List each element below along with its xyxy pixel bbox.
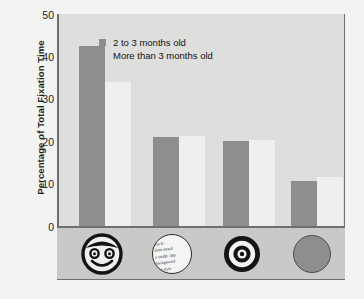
bar-disk-2to3months — [291, 181, 317, 226]
text-circle-lines: ima 8> dette attach n width: 30p backgro… — [153, 236, 192, 273]
bar-face-2to3months — [79, 46, 105, 226]
category-axis-strip: ima 8> dette attach n width: 30p backgro… — [57, 228, 345, 279]
y-tick-30: 30 — [20, 93, 54, 105]
bar-disk-over3months — [317, 177, 343, 226]
category-cell-bullseye — [219, 231, 265, 277]
legend-entry-over3months: More than 3 months old — [99, 49, 213, 62]
bar-text-over3months — [179, 136, 205, 226]
legend-label-2to3months: 2 to 3 months old — [113, 36, 186, 49]
legend-label-over3months: More than 3 months old — [113, 49, 213, 62]
bar-bullseye-2to3months — [223, 141, 249, 226]
category-cell-text-pattern: ima 8> dette attach n width: 30p backgro… — [149, 231, 195, 277]
bar-chart-figure: Percentage of Total Fixation Time 50 40 … — [0, 0, 364, 299]
text-circle-icon: ima 8> dette attach n width: 30p backgro… — [152, 234, 192, 274]
y-tick-10: 10 — [20, 178, 54, 190]
legend-entry-2to3months: 2 to 3 months old — [99, 36, 213, 49]
y-tick-40: 40 — [20, 51, 54, 63]
category-cell-face — [79, 231, 125, 277]
bar-text-2to3months — [153, 137, 179, 226]
bar-face-over3months — [105, 82, 131, 226]
y-axis-tick-labels: 50 40 30 20 10 0 — [16, 0, 54, 299]
smiley-face-icon — [80, 232, 124, 276]
y-tick-20: 20 — [20, 136, 54, 148]
plain-disk-icon — [293, 235, 331, 273]
bar-bullseye-over3months — [249, 140, 275, 226]
category-cell-plain-disk — [289, 231, 335, 277]
y-tick-0: 0 — [20, 221, 54, 233]
bullseye-icon — [221, 233, 263, 275]
legend: 2 to 3 months old More than 3 months old — [99, 36, 213, 62]
legend-swatch-icon-over3months — [99, 52, 106, 59]
legend-swatch-icon-2to3months — [99, 39, 106, 46]
y-tick-50: 50 — [20, 9, 54, 21]
